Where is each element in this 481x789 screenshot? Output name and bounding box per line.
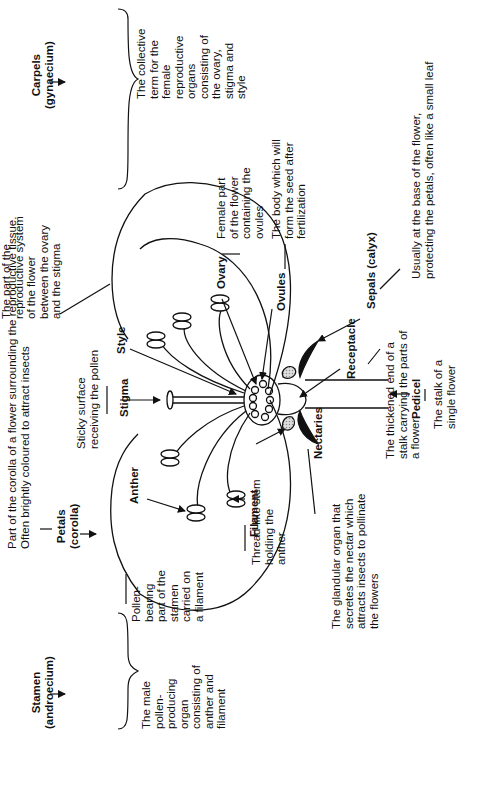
pedicel-description: The stalk of a single flower — [432, 360, 457, 429]
sepal-right — [299, 341, 318, 377]
filament-description: Thread-like stem holding the anther — [250, 479, 288, 565]
stamen-label: Stamen (androecium) — [30, 656, 55, 729]
style-label: Style — [115, 327, 128, 355]
carpels-label: Carpels (gynaecium) — [30, 41, 55, 109]
pedicel-label: Pedicel — [410, 379, 423, 419]
ovules-label: Ovules — [275, 273, 288, 311]
nectary-right — [282, 367, 295, 379]
stamen-description: The male pollen- producing organ consist… — [140, 665, 228, 729]
brace-stamen — [118, 613, 138, 729]
anther-description: Pollen- bearing part of the stamen carri… — [130, 570, 205, 622]
stigma-description: Sticky surface receiving the pollen — [75, 350, 100, 449]
nectaries-description: The glandular organ that secretes the ne… — [330, 493, 380, 629]
stigma-head — [167, 391, 173, 409]
anthers — [147, 295, 245, 521]
stigma-label: Stigma — [118, 379, 131, 417]
nectaries-label: Nectaries — [312, 407, 325, 459]
ovary-description: Female part of the flower containing the… — [215, 167, 265, 239]
flower-diagram: Part of the corolla of a flower surround… — [0, 0, 481, 789]
petals-label: Petals (corolla) — [55, 504, 80, 549]
style-description: The part of the reproductive system of t… — [0, 216, 63, 319]
carpels-description: The collective term for the female repro… — [135, 29, 248, 99]
sepals-description: Usually at the base of the flower, prote… — [410, 62, 435, 279]
petal-right-inner — [140, 239, 271, 389]
receptacle-label: Receptacle — [345, 318, 358, 379]
nectary-left — [283, 417, 295, 430]
receptacle-shape — [278, 383, 306, 414]
ovules-description: The body which will form the seed after … — [270, 139, 308, 239]
anther-label: Anther — [128, 467, 141, 504]
sepals-label: Sepals (calyx) — [365, 232, 378, 309]
ovary-label: Ovary — [215, 256, 228, 289]
